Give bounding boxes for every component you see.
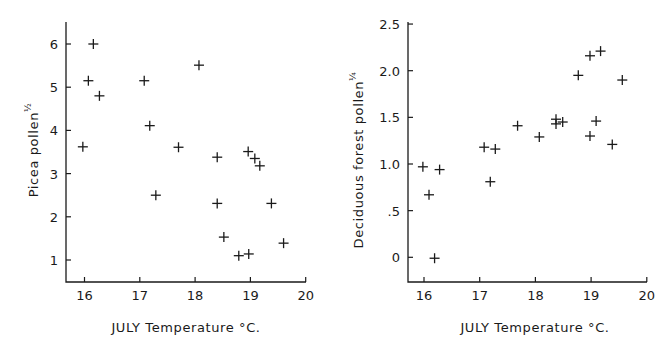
figure: 1617181920 123456 JULY Temperature °C. P… xyxy=(0,0,667,344)
y-tick-label: 1.5 xyxy=(379,110,400,125)
plus-marker-icon xyxy=(244,249,254,259)
x-tick-label: 18 xyxy=(187,288,204,303)
x-tick-label: 19 xyxy=(242,288,259,303)
plus-marker-icon xyxy=(534,132,544,142)
deciduous-chart: 1617181920 0.51.01.52.02.5 JULY Temperat… xyxy=(348,17,655,335)
plus-marker-icon xyxy=(266,198,276,208)
picea-x-ticks: 1617181920 xyxy=(76,277,314,303)
plus-marker-icon xyxy=(430,253,440,263)
plus-marker-icon xyxy=(607,139,617,149)
deciduous-y-axis-label: Deciduous forest pollen¼ xyxy=(348,72,366,249)
y-tick-label: 1.0 xyxy=(379,157,400,172)
y-tick-label: 4 xyxy=(50,123,58,138)
plus-marker-icon xyxy=(243,147,253,157)
x-tick-label: 17 xyxy=(471,288,488,303)
plus-marker-icon xyxy=(88,39,98,49)
plus-marker-icon xyxy=(513,121,523,131)
picea-y-ticks: 123456 xyxy=(50,37,71,268)
plus-marker-icon xyxy=(255,161,265,171)
deciduous-x-ticks: 1617181920 xyxy=(416,277,655,303)
plus-marker-icon xyxy=(558,117,568,127)
x-tick-label: 20 xyxy=(297,288,314,303)
deciduous-points xyxy=(418,46,627,263)
x-tick-label: 20 xyxy=(639,288,656,303)
x-tick-label: 18 xyxy=(527,288,544,303)
plus-marker-icon xyxy=(234,251,244,261)
plus-marker-icon xyxy=(551,119,561,129)
x-tick-label: 16 xyxy=(416,288,433,303)
plus-marker-icon xyxy=(250,153,260,163)
y-tick-label: 1 xyxy=(50,253,58,268)
plus-marker-icon xyxy=(591,116,601,126)
plus-marker-icon xyxy=(212,198,222,208)
y-tick-label: 2.5 xyxy=(379,17,400,32)
plus-marker-icon xyxy=(279,238,289,248)
y-tick-label: 3 xyxy=(50,167,58,182)
picea-y-axis-label: Picea pollen½ xyxy=(23,103,41,198)
y-tick-label: .5 xyxy=(388,204,400,219)
deciduous-axes xyxy=(408,22,647,282)
deciduous-y-axis-label-group: Deciduous forest pollen¼ xyxy=(348,72,366,249)
plus-marker-icon xyxy=(139,76,149,86)
picea-chart: 1617181920 123456 JULY Temperature °C. P… xyxy=(23,22,314,335)
plus-marker-icon xyxy=(479,142,489,152)
plus-marker-icon xyxy=(194,60,204,70)
plus-marker-icon xyxy=(424,190,434,200)
plus-marker-icon xyxy=(617,75,627,85)
y-tick-label: 2 xyxy=(50,210,58,225)
plus-marker-icon xyxy=(418,162,428,172)
plus-marker-icon xyxy=(490,144,500,154)
deciduous-x-axis-label: JULY Temperature °C. xyxy=(459,320,609,335)
picea-y-axis-label-group: Picea pollen½ xyxy=(23,103,41,198)
y-tick-label: 2.0 xyxy=(379,64,400,79)
plus-marker-icon xyxy=(485,177,495,187)
plus-marker-icon xyxy=(219,232,229,242)
plus-marker-icon xyxy=(78,142,88,152)
plus-marker-icon xyxy=(212,152,222,162)
y-tick-label: 6 xyxy=(50,37,58,52)
x-tick-label: 16 xyxy=(76,288,93,303)
plus-marker-icon xyxy=(585,51,595,61)
picea-points xyxy=(78,39,289,261)
picea-x-axis-label: JULY Temperature °C. xyxy=(110,320,260,335)
plus-marker-icon xyxy=(83,76,93,86)
x-tick-label: 19 xyxy=(583,288,600,303)
plus-marker-icon xyxy=(94,91,104,101)
plus-marker-icon xyxy=(145,121,155,131)
y-tick-label: 5 xyxy=(50,80,58,95)
plus-marker-icon xyxy=(585,131,595,141)
picea-axes xyxy=(66,22,306,282)
plus-marker-icon xyxy=(151,190,161,200)
plus-marker-icon xyxy=(435,165,445,175)
y-tick-label: 0 xyxy=(392,250,400,265)
plus-marker-icon xyxy=(174,142,184,152)
plus-marker-icon xyxy=(573,70,583,80)
plus-marker-icon xyxy=(596,46,606,56)
x-tick-label: 17 xyxy=(132,288,149,303)
